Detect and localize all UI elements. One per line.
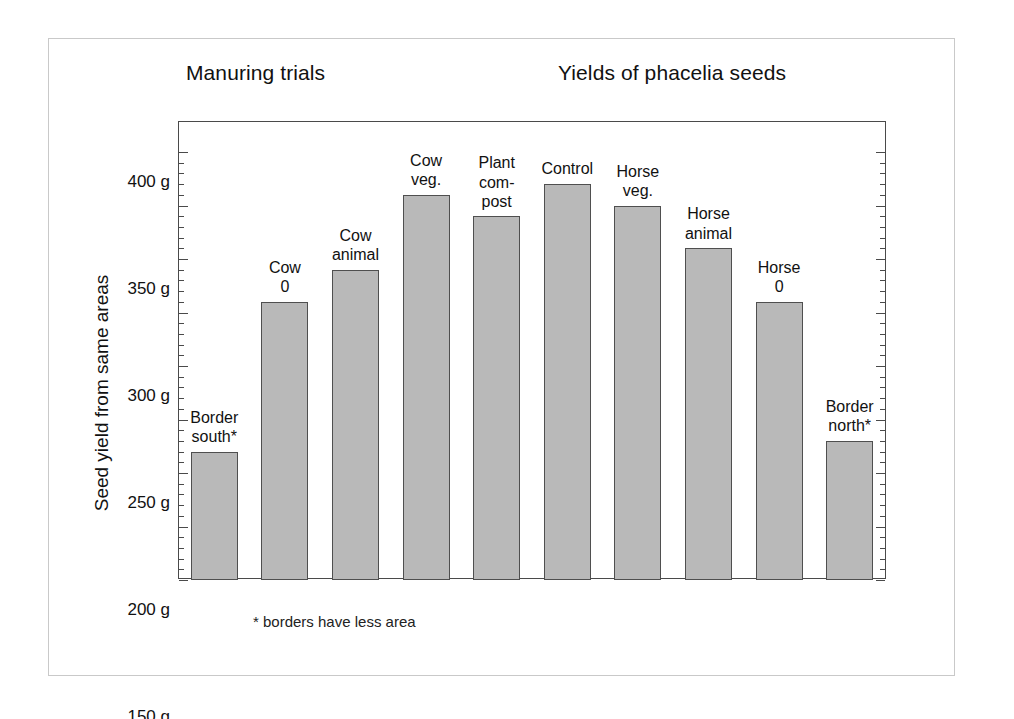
chart-footnote: * borders have less area [253, 613, 416, 630]
y-tick-minor-right [880, 484, 885, 485]
y-tick-minor [179, 452, 184, 453]
bar-label: Border north* [806, 397, 893, 436]
bar [544, 184, 591, 580]
y-tick-minor-right [880, 280, 885, 281]
y-tick-minor-right [880, 184, 885, 185]
y-tick-minor-right [880, 559, 885, 560]
y-tick-minor-right [880, 377, 885, 378]
y-tick-minor [179, 569, 184, 570]
y-tick-minor [179, 462, 184, 463]
y-tick-minor [179, 548, 184, 549]
y-tick-minor [179, 216, 184, 217]
y-tick-minor [179, 559, 184, 560]
y-tick-minor [179, 355, 184, 356]
figure-frame: Manuring trials Yields of phacelia seeds… [48, 38, 955, 676]
y-axis-tick-label: 250 g [127, 493, 170, 513]
y-tick-minor-right [880, 494, 885, 495]
y-tick-minor [179, 484, 184, 485]
bar-label: Border south* [171, 408, 258, 447]
bar [826, 441, 873, 580]
y-tick-minor-right [880, 452, 885, 453]
y-tick-major: 100 g [179, 473, 188, 474]
bar-label: Horse veg. [595, 162, 682, 201]
y-axis-tick-label: 150 g [127, 707, 170, 719]
y-tick-minor [179, 345, 184, 346]
y-tick-minor [179, 505, 184, 506]
y-axis-tick-label: 400 g [127, 172, 170, 192]
y-tick-minor-right [880, 270, 885, 271]
y-tick-minor-right [880, 548, 885, 549]
y-tick-major: 400 g [179, 152, 188, 153]
y-tick-major-right [876, 473, 885, 474]
plot-inner: 0 g50 g100 g150 g200 g250 g300 g350 g400… [179, 122, 885, 578]
y-tick-minor-right [880, 569, 885, 570]
y-tick-minor [179, 163, 184, 164]
y-tick-minor-right [880, 302, 885, 303]
y-tick-minor-right [880, 537, 885, 538]
y-tick-minor-right [880, 227, 885, 228]
y-tick-minor-right [880, 355, 885, 356]
bar [403, 195, 450, 580]
y-tick-minor [179, 334, 184, 335]
y-tick-minor [179, 291, 184, 292]
bar-label: Horse animal [665, 204, 752, 243]
y-tick-minor [179, 238, 184, 239]
y-tick-major: 50 g [179, 527, 188, 528]
y-tick-minor [179, 227, 184, 228]
y-tick-minor [179, 387, 184, 388]
bar [191, 452, 238, 580]
y-tick-minor-right [880, 163, 885, 164]
y-tick-minor-right [880, 173, 885, 174]
bar [473, 216, 520, 580]
y-tick-minor-right [880, 216, 885, 217]
y-tick-minor-right [880, 387, 885, 388]
y-tick-major: 200 g [179, 366, 188, 367]
y-axis-tick-label: 350 g [127, 279, 170, 299]
y-tick-minor-right [880, 505, 885, 506]
y-tick-major: 350 g [179, 206, 188, 207]
bar-label: Cow animal [312, 226, 399, 265]
y-tick-minor-right [880, 441, 885, 442]
y-tick-minor [179, 270, 184, 271]
bar-label: Horse 0 [736, 258, 823, 297]
y-tick-major-right [876, 313, 885, 314]
bar [614, 206, 661, 581]
bar [261, 302, 308, 580]
y-axis-title: Seed yield from same areas [91, 233, 113, 553]
y-tick-minor [179, 302, 184, 303]
chart-title-left: Manuring trials [186, 61, 325, 85]
y-tick-minor [179, 323, 184, 324]
y-tick-major-right [876, 366, 885, 367]
y-tick-minor-right [880, 334, 885, 335]
chart-title-right: Yields of phacelia seeds [558, 61, 786, 85]
y-tick-minor [179, 398, 184, 399]
y-tick-major: 300 g [179, 259, 188, 260]
y-tick-minor-right [880, 516, 885, 517]
y-tick-minor-right [880, 345, 885, 346]
y-axis-tick-label: 200 g [127, 600, 170, 620]
y-tick-major-right [876, 152, 885, 153]
y-tick-major: 250 g [179, 313, 188, 314]
y-tick-minor-right [880, 195, 885, 196]
y-tick-minor-right [880, 291, 885, 292]
y-tick-minor-right [880, 462, 885, 463]
y-tick-minor [179, 377, 184, 378]
y-tick-minor [179, 195, 184, 196]
plot-area: 0 g50 g100 g150 g200 g250 g300 g350 g400… [178, 121, 886, 579]
bar [756, 302, 803, 580]
y-axis-tick-label: 300 g [127, 386, 170, 406]
y-tick-minor [179, 280, 184, 281]
y-tick-minor-right [880, 323, 885, 324]
y-tick-minor [179, 537, 184, 538]
y-tick-major-right [876, 259, 885, 260]
y-tick-minor [179, 184, 184, 185]
y-tick-minor [179, 516, 184, 517]
y-tick-minor-right [880, 248, 885, 249]
y-tick-minor [179, 173, 184, 174]
y-tick-minor [179, 248, 184, 249]
y-tick-minor-right [880, 238, 885, 239]
y-tick-major-right [876, 580, 885, 581]
bar [685, 248, 732, 580]
bar [332, 270, 379, 580]
y-tick-major-right [876, 206, 885, 207]
